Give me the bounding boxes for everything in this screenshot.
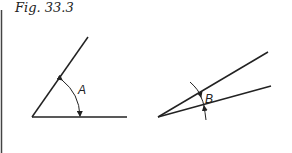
angle-b-lower-arrow — [204, 106, 206, 120]
angle-diagram: A B — [0, 0, 292, 153]
angle-b-figure: B — [158, 52, 271, 120]
angle-b-label: B — [205, 92, 213, 106]
angle-a-label: A — [77, 83, 86, 97]
angle-b-upper-ray — [158, 52, 268, 117]
angle-a-figure: A — [32, 37, 127, 117]
angle-b-lower-ray — [158, 86, 271, 117]
angle-a-upper-ray — [32, 37, 88, 117]
